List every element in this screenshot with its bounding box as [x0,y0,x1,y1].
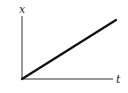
y-axis-label: x [19,3,26,16]
position-time-graph: x t [0,0,128,93]
x-axis-label: t [116,73,121,86]
data-line [22,20,116,79]
